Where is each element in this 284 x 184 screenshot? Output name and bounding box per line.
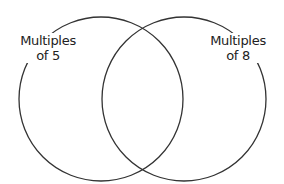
venn-diagram (0, 0, 284, 184)
label-left-line1: Multiples (14, 33, 82, 48)
label-multiples-of-8: Multiples of 8 (203, 33, 273, 63)
label-multiples-of-5: Multiples of 5 (13, 33, 83, 63)
label-right-line2: of 8 (204, 48, 272, 63)
label-left-line2: of 5 (14, 48, 82, 63)
label-right-line1: Multiples (204, 33, 272, 48)
